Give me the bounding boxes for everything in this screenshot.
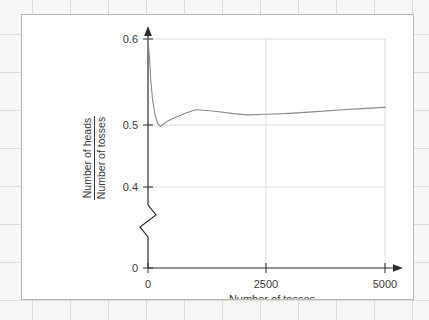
x-axis-arrowhead: [393, 264, 403, 272]
x-tick-label-2500: 2500: [254, 278, 278, 290]
y-tick-label-0.5: 0.5: [123, 119, 138, 131]
y-axis-title-numerator: Number of heads: [81, 118, 93, 199]
y-axis-title-denominator: Number of tosses: [95, 117, 107, 199]
proportion-of-heads-line-chart: 0.6 0.5 0.4 0 0 2500 5000 Number of toss…: [22, 15, 414, 300]
figure-panel: 0.6 0.5 0.4 0 0 2500 5000 Number of toss…: [21, 14, 414, 300]
y-axis-title: Number of heads Number of tosses: [81, 116, 107, 200]
x-axis-title: Number of tosses: [229, 293, 316, 300]
y-axis: [140, 26, 156, 268]
x-axis: [148, 263, 403, 273]
y-axis-break-zigzag: [140, 203, 156, 268]
y-tick-label-0.4: 0.4: [123, 181, 138, 193]
y-axis-arrowhead: [144, 26, 152, 36]
chart-figure: 0.6 0.5 0.4 0 0 2500 5000 Number of toss…: [22, 15, 414, 300]
gridlines: [148, 39, 385, 268]
x-tick-label-0: 0: [145, 278, 151, 290]
y-tick-label-0.6: 0.6: [123, 33, 138, 45]
x-tick-label-5000: 5000: [373, 278, 397, 290]
y-tick-label-origin: 0: [132, 262, 138, 274]
